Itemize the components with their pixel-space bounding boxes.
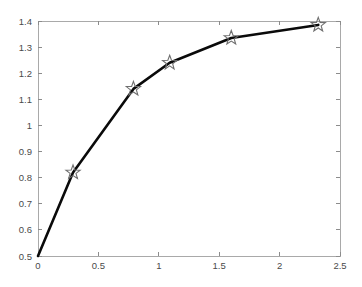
y-tick-label-5: 1 [27,120,32,131]
y-tick-label-3: 0.8 [19,172,32,183]
y-tick-label-7: 1.2 [19,68,32,79]
chart-figure: 00.511.522.5 0.50.60.70.80.911.11.21.31.… [0,0,362,287]
x-tick-label-3: 1.5 [213,260,226,271]
y-tick-label-9: 1.4 [19,16,32,27]
line-chart: 00.511.522.5 0.50.60.70.80.911.11.21.31.… [0,0,362,287]
y-tick-label-8: 1.3 [19,42,32,53]
y-tick-label-1: 0.6 [19,224,32,235]
x-tick-label-1: 0.5 [92,260,105,271]
x-tick-label-0: 0 [35,260,40,271]
x-tick-label-2: 1 [156,260,161,271]
y-tick-label-0: 0.5 [19,251,32,262]
x-tick-label-5: 2.5 [333,260,346,271]
y-tick-label-6: 1.1 [19,94,32,105]
x-tick-label-4: 2 [277,260,282,271]
chart-background [0,0,362,287]
y-tick-label-2: 0.7 [19,198,32,209]
y-tick-label-4: 0.9 [19,146,32,157]
